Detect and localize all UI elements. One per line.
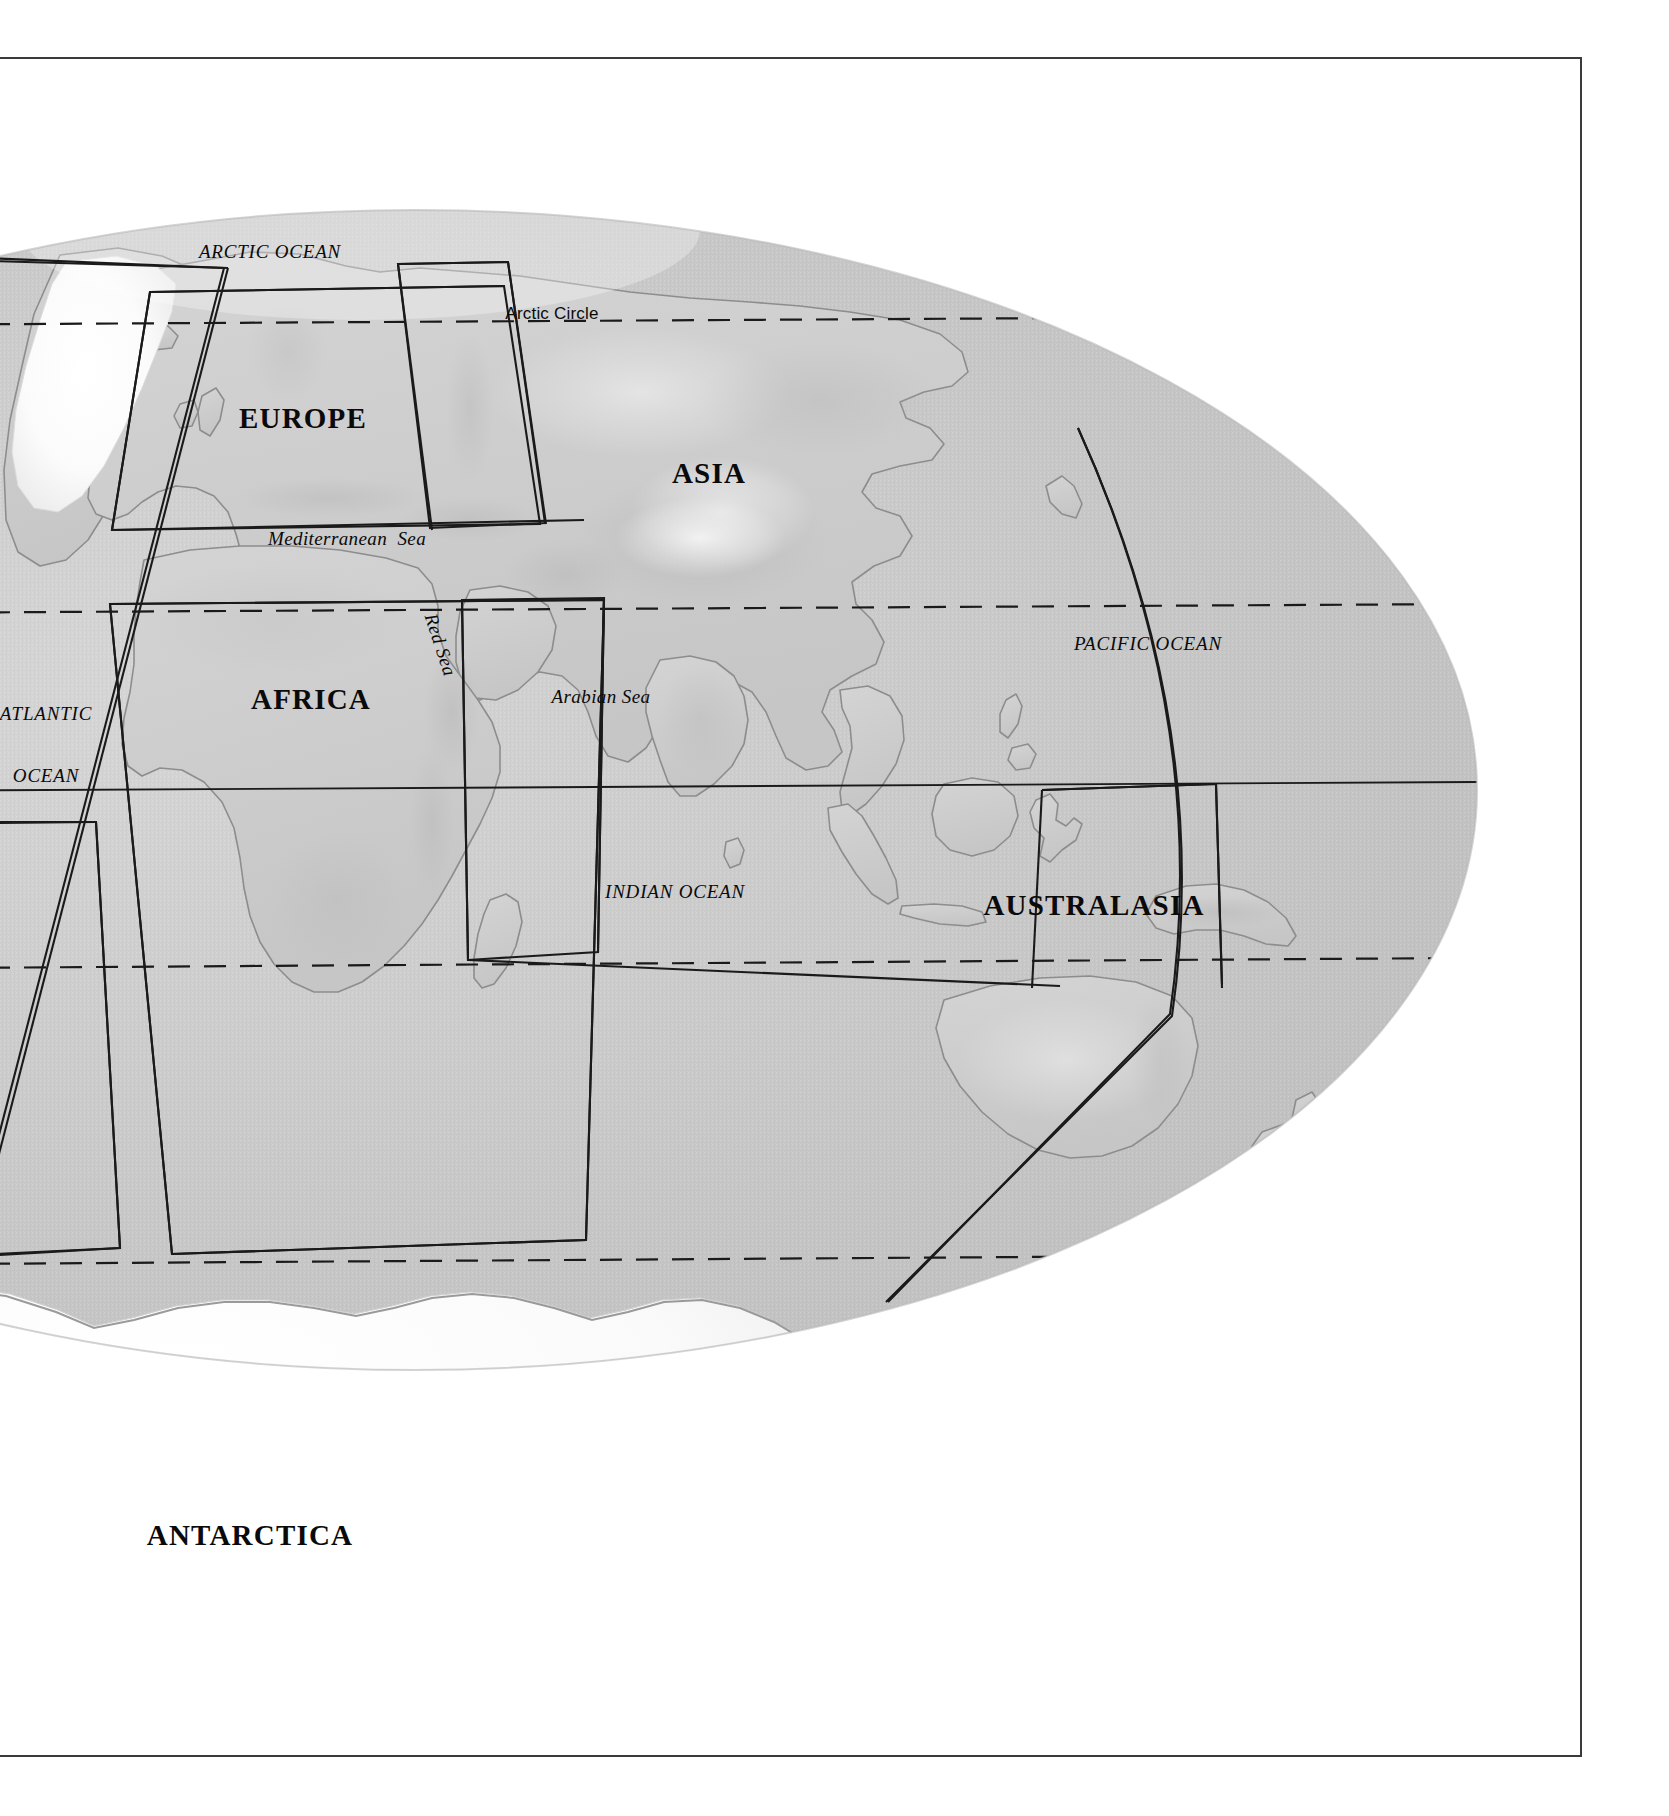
ocean-label-atlantic-ocean: ATLANTIC OCEAN — [0, 663, 92, 827]
atlantic-ocean-line-1: ATLANTIC — [0, 704, 92, 725]
continent-label-africa: AFRICA — [251, 684, 371, 715]
antarctica-ice-sheet — [0, 1284, 866, 1594]
continent-label-europe: EUROPE — [239, 403, 367, 434]
atlantic-ocean-line-2: OCEAN — [0, 766, 92, 787]
continent-label-asia: ASIA — [672, 458, 746, 489]
ocean-label-pacific-ocean: PACIFIC OCEAN — [1074, 634, 1222, 655]
sea-label-mediterranean-sea: Mediterranean Sea — [268, 529, 426, 550]
continent-label-australasia: AUSTRALASIA — [983, 890, 1204, 921]
sea-label-arabian-sea: Arabian Sea — [552, 687, 651, 708]
latitude-label-arctic-circle: Arctic Circle — [505, 305, 598, 323]
ocean-label-arctic-ocean: ARCTIC OCEAN — [199, 242, 341, 263]
continent-label-antarctica: ANTARCTICA — [147, 1520, 353, 1551]
ocean-label-indian-ocean: INDIAN OCEAN — [605, 882, 745, 903]
